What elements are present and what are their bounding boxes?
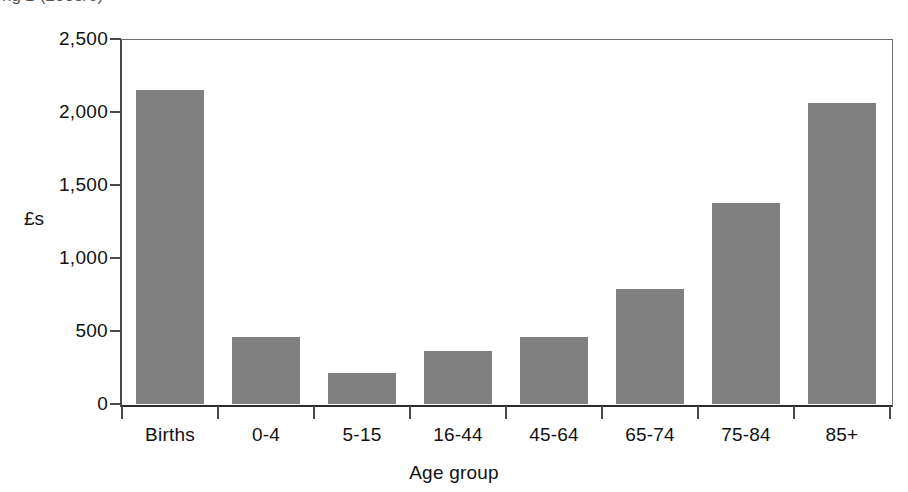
y-axis-tick-mark xyxy=(110,257,121,259)
chart-title-text: ng £ (2005/6) xyxy=(0,0,908,6)
y-axis-tick-mark xyxy=(110,38,121,40)
x-axis-tick-label: 65-74 xyxy=(625,424,675,446)
x-axis-tick-mark xyxy=(505,406,507,419)
x-axis-tick-label: 0-4 xyxy=(252,424,280,446)
y-axis-tick-label: 0 xyxy=(97,393,108,415)
y-axis-label: £s xyxy=(24,208,44,230)
bar xyxy=(808,103,876,404)
bar xyxy=(712,203,780,404)
x-axis-tick-mark xyxy=(697,406,699,419)
x-axis-tick-label: 45-64 xyxy=(529,424,579,446)
x-axis-tick-mark xyxy=(313,406,315,419)
y-axis-tick-label: 2,500 xyxy=(59,28,108,50)
y-axis-tick-mark xyxy=(110,111,121,113)
chart-title-clipped: ng £ (2005/6) xyxy=(0,0,908,8)
y-axis-tick-mark xyxy=(110,403,121,405)
bar xyxy=(232,337,300,404)
x-axis-tick-mark xyxy=(889,406,891,419)
y-axis-tick-label: 1,500 xyxy=(59,174,108,196)
x-axis-tick-mark xyxy=(793,406,795,419)
y-axis-tick-labels: 05001,0001,5002,0002,500 xyxy=(0,0,108,492)
bar xyxy=(424,351,492,404)
y-axis-tick-label: 500 xyxy=(75,320,108,342)
y-axis-tick-label: 2,000 xyxy=(59,101,108,123)
chart-figure: ng £ (2005/6) 05001,0001,5002,0002,500 £… xyxy=(0,0,908,492)
y-axis-tick-mark xyxy=(110,330,121,332)
x-axis-tick-label: 85+ xyxy=(826,424,859,446)
bar xyxy=(328,373,396,404)
bar xyxy=(520,337,588,404)
x-axis-tick-label: 16-44 xyxy=(433,424,483,446)
y-axis-tick-label: 1,000 xyxy=(59,247,108,269)
x-axis-tick-mark xyxy=(217,406,219,419)
x-axis-tick-mark xyxy=(409,406,411,419)
y-axis-tick-mark xyxy=(110,184,121,186)
x-axis-label: Age group xyxy=(0,462,908,484)
bar xyxy=(136,90,204,404)
x-axis-tick-label: Births xyxy=(145,424,195,446)
x-axis-tick-label: 5-15 xyxy=(343,424,382,446)
x-axis-tick-mark xyxy=(601,406,603,419)
bar xyxy=(616,289,684,404)
x-axis-tick-label: 75-84 xyxy=(721,424,771,446)
x-axis-tick-mark xyxy=(121,406,123,419)
bar-series xyxy=(122,40,890,404)
